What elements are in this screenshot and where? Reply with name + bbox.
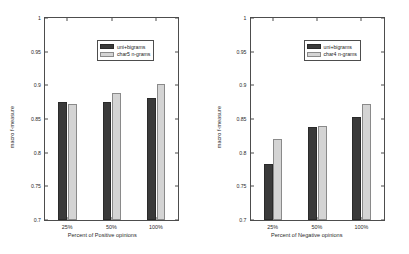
y-axis-tick-label: 0.7 xyxy=(34,217,45,223)
bar xyxy=(103,102,112,221)
x-axis-tick-label: 100% xyxy=(149,224,163,230)
chart-panel-negative: macro f-measure 0.70.750.80.850.90.95125… xyxy=(205,0,409,254)
x-axis-label-right: Percent of Negative opinions xyxy=(271,232,343,238)
x-axis-tick-label: 25% xyxy=(267,224,278,230)
x-axis-tick-label: 100% xyxy=(354,224,368,230)
bar xyxy=(157,84,166,220)
plot-area-right: 0.70.750.80.850.90.95125%50%100% uni+big… xyxy=(250,17,385,221)
bar xyxy=(68,104,77,220)
bar xyxy=(308,127,317,220)
bar xyxy=(264,164,273,220)
legend-entry: uni+bigrams xyxy=(307,43,357,51)
plot-area-left: 0.70.750.80.850.90.95125%50%100% uni+big… xyxy=(44,17,179,221)
bar xyxy=(147,98,156,220)
bar xyxy=(352,117,361,220)
legend-entry: uni+bigrams xyxy=(100,43,150,51)
bar xyxy=(318,126,327,220)
bar xyxy=(112,93,121,220)
legend-swatch-light-icon xyxy=(100,52,114,57)
chart-panel-positive: macro f-measure 0.70.750.80.850.90.95125… xyxy=(0,0,205,254)
x-axis-tick-label: 50% xyxy=(106,224,117,230)
bar xyxy=(58,102,67,220)
y-axis-tick-label: 1 xyxy=(244,15,251,21)
y-axis-label-left: macro f-measure xyxy=(9,106,15,148)
y-axis-tick-label: 0.75 xyxy=(236,183,250,189)
y-axis-label-right: macro f-measure xyxy=(216,106,222,148)
bar xyxy=(362,104,371,220)
legend-swatch-dark-icon xyxy=(307,44,321,49)
x-axis-tick-label: 25% xyxy=(62,224,73,230)
legend-label: uni+bigrams xyxy=(324,44,352,50)
y-axis-tick-label: 0.9 xyxy=(34,82,45,88)
y-axis-tick-label: 0.8 xyxy=(34,150,45,156)
y-axis-tick-label: 0.7 xyxy=(239,217,250,223)
y-axis-tick-label: 1 xyxy=(38,15,45,21)
bar xyxy=(273,139,282,220)
legend-label: char4 n-grams xyxy=(324,51,357,57)
legend-entry: char5 n-grams xyxy=(100,51,150,59)
y-axis-tick-label: 0.85 xyxy=(31,116,45,122)
y-axis-tick-label: 0.75 xyxy=(31,183,45,189)
y-axis-tick-label: 0.85 xyxy=(236,116,250,122)
x-axis-label-left: Percent of Positive opinions xyxy=(68,232,137,238)
legend-right: uni+bigrams char4 n-grams xyxy=(304,40,361,61)
x-axis-tick-label: 50% xyxy=(312,224,323,230)
y-axis-tick-label: 0.95 xyxy=(31,49,45,55)
y-axis-tick-label: 0.8 xyxy=(239,150,250,156)
legend-label: uni+bigrams xyxy=(117,44,145,50)
legend-entry: char4 n-grams xyxy=(307,51,357,59)
figure: macro f-measure 0.70.750.80.850.90.95125… xyxy=(0,0,409,254)
y-axis-tick-label: 0.95 xyxy=(236,49,250,55)
legend-label: char5 n-grams xyxy=(117,51,150,57)
legend-swatch-light-icon xyxy=(307,52,321,57)
legend-left: uni+bigrams char5 n-grams xyxy=(97,40,154,61)
y-axis-tick-label: 0.9 xyxy=(239,82,250,88)
legend-swatch-dark-icon xyxy=(100,44,114,49)
